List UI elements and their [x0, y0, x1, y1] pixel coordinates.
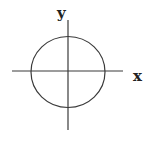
coordinate-diagram: x y [0, 0, 150, 141]
x-axis-label: x [133, 67, 143, 85]
y-axis-label: y [56, 4, 67, 22]
